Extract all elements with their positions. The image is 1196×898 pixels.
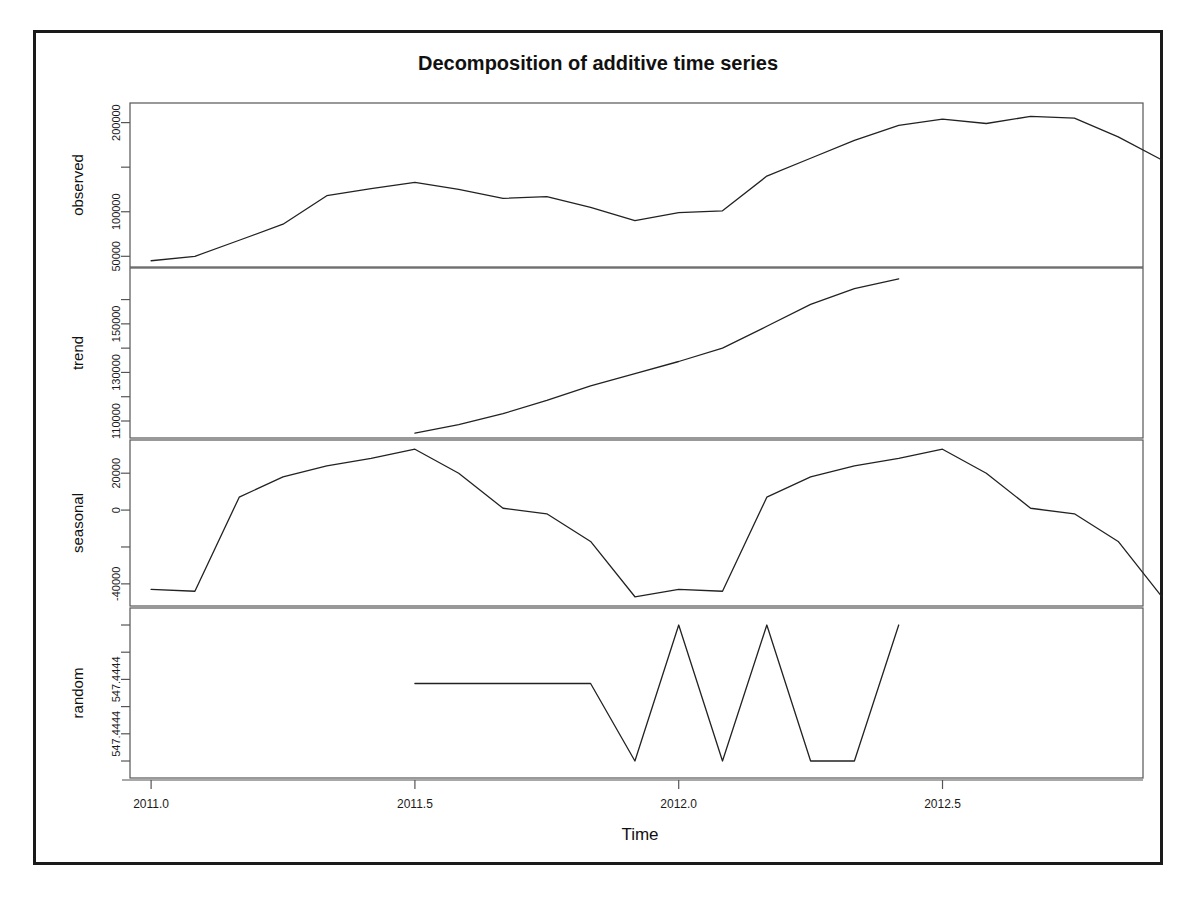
panels-group: 50000100000200000observed110000130000150… <box>69 103 1162 778</box>
x-tick-label: 2011.0 <box>133 797 169 811</box>
decomposition-plot: Decomposition of additive time series 50… <box>0 0 1196 898</box>
panel-observed: 50000100000200000observed <box>69 103 1162 272</box>
panel-label-observed: observed <box>69 154 86 216</box>
y-tick-label: 50000 <box>110 241 122 272</box>
y-tick-label: 547.4444 <box>110 711 122 757</box>
series-line-random <box>415 625 899 761</box>
x-axis: 2011.02011.52012.02012.5 <box>122 780 1143 811</box>
series-line-seasonal <box>151 449 1162 597</box>
page-title: Decomposition of additive time series <box>418 52 778 74</box>
panel-frame <box>130 268 1143 438</box>
panel-label-seasonal: seasonal <box>69 493 86 553</box>
panel-seasonal: -40000020000seasonal <box>69 440 1162 606</box>
series-line-trend <box>415 279 899 433</box>
panel-label-trend: trend <box>69 336 86 370</box>
panel-random: 547.4444547.4444random <box>69 608 1143 778</box>
y-tick-label: 110000 <box>110 403 122 439</box>
figure-root: Decomposition of additive time series 50… <box>0 0 1196 898</box>
panel-trend: 110000130000150000trend <box>69 268 1143 439</box>
y-tick-label: 200000 <box>110 104 122 141</box>
y-tick-label: 0 <box>110 507 122 513</box>
panel-frame <box>130 440 1143 606</box>
series-line-observed <box>151 116 1162 260</box>
panel-frame <box>130 103 1143 267</box>
panel-frame <box>130 608 1143 778</box>
panel-label-random: random <box>69 668 86 719</box>
x-axis-title: Time <box>621 825 658 844</box>
x-tick-label: 2012.5 <box>924 797 961 811</box>
y-tick-label: 100000 <box>110 193 122 230</box>
y-tick-label: -40000 <box>110 567 122 601</box>
x-tick-label: 2012.0 <box>660 797 697 811</box>
y-tick-label: 547.4444 <box>110 656 122 702</box>
y-tick-label: 130000 <box>110 354 122 391</box>
y-tick-label: 150000 <box>110 305 122 342</box>
x-tick-label: 2011.5 <box>397 797 433 811</box>
y-tick-label: 20000 <box>110 458 122 489</box>
